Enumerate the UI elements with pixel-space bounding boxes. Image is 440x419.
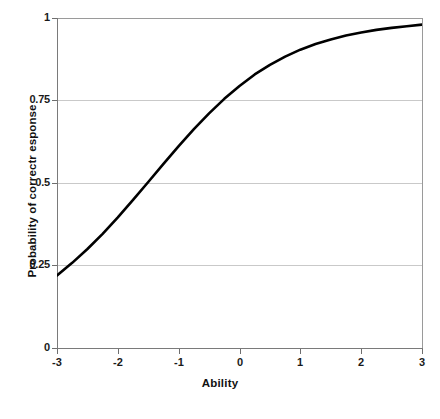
data-curve-svg — [57, 18, 422, 348]
x-tick-mark-neg3 — [57, 349, 58, 354]
y-axis-title: Probability of correctr esponse — [26, 71, 38, 311]
item-characteristic-curve — [57, 25, 422, 276]
x-tick-mark-1 — [300, 349, 301, 354]
x-tick-label-0: 0 — [220, 356, 260, 368]
x-tick-mark-2 — [361, 349, 362, 354]
x-axis-title: Ability — [0, 377, 440, 389]
x-tick-mark-0 — [240, 349, 241, 354]
x-tick-mark-neg1 — [179, 349, 180, 354]
x-tick-mark-neg2 — [118, 349, 119, 354]
plot-frame-right — [422, 18, 423, 349]
x-tick-label-1: 1 — [280, 356, 320, 368]
y-tick-label-0: 0 — [6, 341, 50, 353]
x-tick-label-neg1: -1 — [159, 356, 199, 368]
chart-figure: 1 0.75 0.5 0.25 0 -3 -2 -1 0 1 2 3 Abili… — [0, 0, 440, 419]
x-tick-mark-3 — [422, 349, 423, 354]
x-tick-label-3: 3 — [402, 356, 440, 368]
x-tick-label-2: 2 — [341, 356, 381, 368]
x-tick-label-neg2: -2 — [98, 356, 138, 368]
y-tick-label-1: 1 — [6, 11, 50, 23]
x-tick-label-neg3: -3 — [37, 356, 77, 368]
y-axis-title-container: Probability of correctr esponse — [26, 71, 42, 311]
